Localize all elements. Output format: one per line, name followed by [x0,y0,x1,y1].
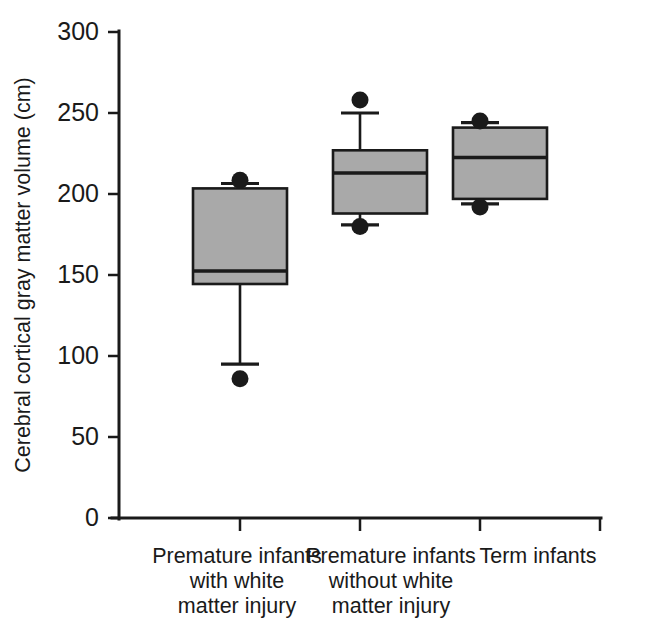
boxplot-canvas: Cerebral cortical gray matter volume (cm… [0,0,645,625]
x-axis-ticks [240,518,600,531]
y-axis-title-text: Cerebral cortical gray matter volume (cm… [11,77,35,472]
cat-label-2-line-2: without white [328,569,453,593]
boxplot-figure: Cerebral cortical gray matter volume (cm… [0,0,645,625]
outlier-dot-1-high [232,172,249,189]
box-rect-2 [333,150,427,213]
y-tick-label-300: 300 [57,17,99,45]
cat-label-1-line-1: Premature infants [152,544,322,568]
y-axis-tick-labels: 300 250 200 150 100 50 0 [57,17,99,531]
boxplot-group-term-infants[interactable] [453,113,547,216]
cat-label-1-line-2: with white [189,569,284,593]
cat-label-1-line-3: matter injury [178,594,297,618]
y-tick-label-250: 250 [57,98,99,126]
outlier-dot-2-high [352,92,369,109]
y-tick-label-0: 0 [85,503,99,531]
boxplot-group-premature-with-wmi[interactable] [193,172,287,388]
y-tick-label-50: 50 [71,422,99,450]
box-rect-3 [453,128,547,199]
y-axis-ticks [108,32,119,518]
outlier-dot-1-low [232,370,249,387]
x-axis-category-labels: Premature infants with white matter inju… [152,544,596,618]
cat-label-2-line-1: Premature infants [306,544,476,568]
cat-label-3-line-1: Term infants [479,544,596,568]
outlier-dot-3-low [472,199,489,216]
y-axis-title: Cerebral cortical gray matter volume (cm… [11,77,35,472]
outlier-dot-3-high [472,113,489,130]
boxplot-group-premature-without-wmi[interactable] [333,92,427,235]
y-tick-label-100: 100 [57,341,99,369]
y-tick-label-200: 200 [57,179,99,207]
outlier-dot-2-low [352,218,369,235]
cat-label-2-line-3: matter injury [332,594,451,618]
y-tick-label-150: 150 [57,260,99,288]
